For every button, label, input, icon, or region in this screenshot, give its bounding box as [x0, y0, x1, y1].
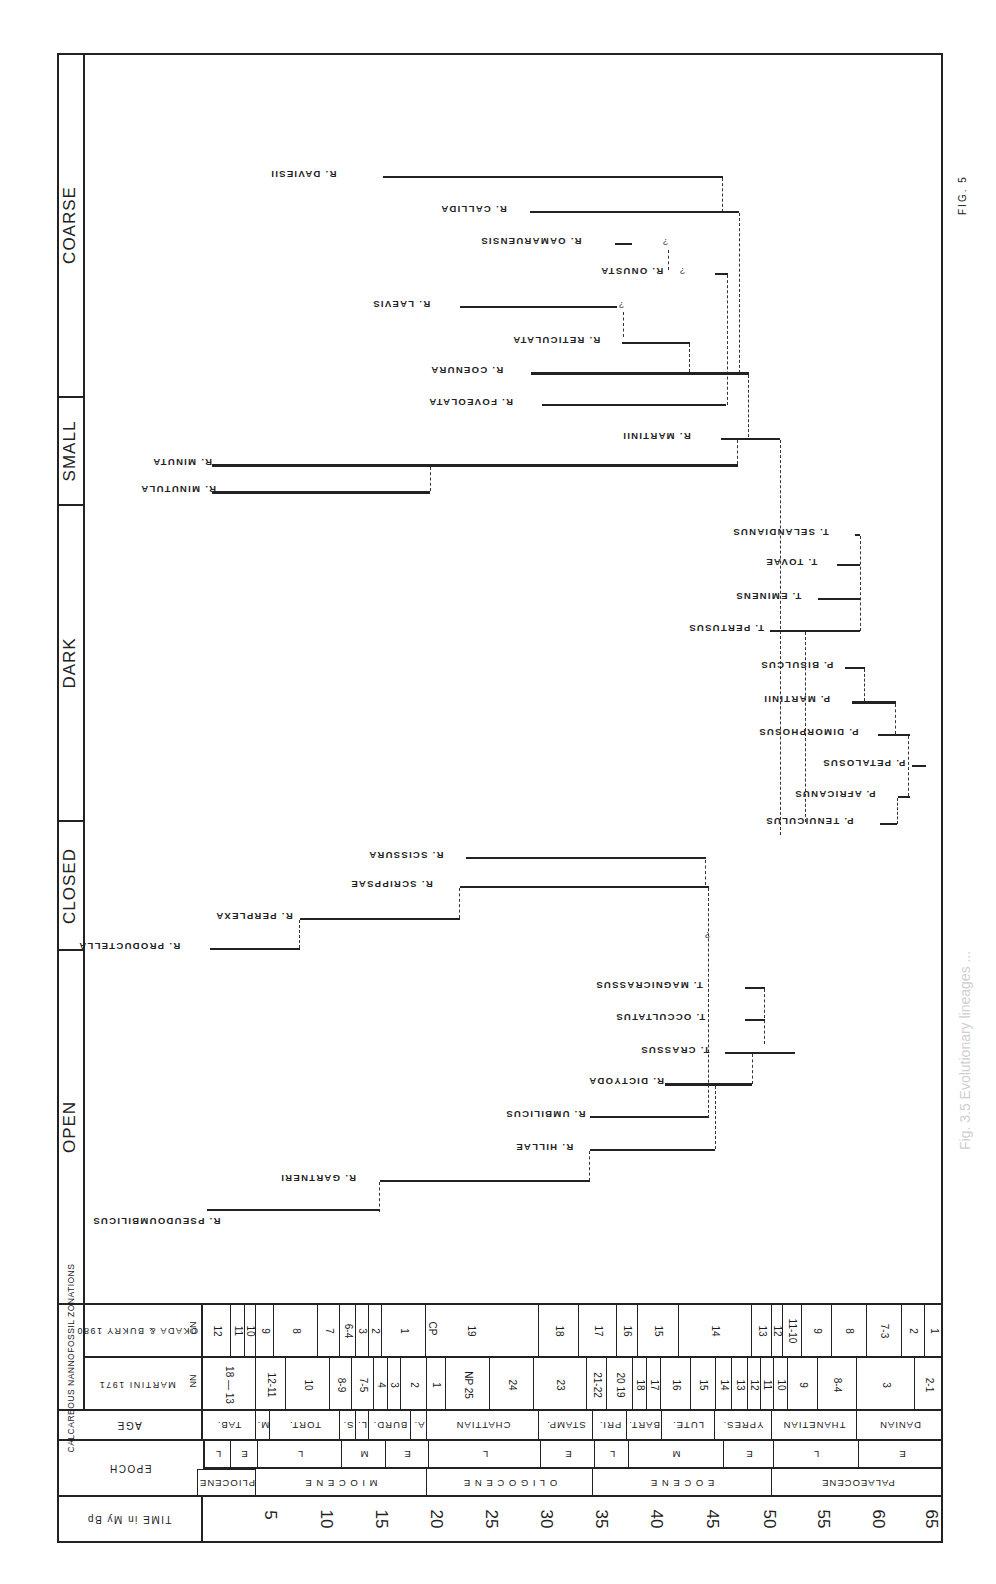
zonation-header: CALCAREOUS NANNOFOSSIL ZONATIONS: [57, 1305, 85, 1409]
subepoch: L: [481, 1449, 487, 1460]
zone: 13: [756, 1325, 767, 1336]
age: STAMP.: [546, 1420, 585, 1431]
range-bar: [622, 342, 690, 344]
range-bar: [207, 1209, 380, 1211]
species-label: R. DAVIESII: [270, 169, 336, 180]
okada-prefix: CN: [188, 1322, 198, 1335]
range-bar: [880, 823, 897, 825]
subepoch-cells: L E L M E L E L M E L E: [203, 1441, 943, 1469]
figure-number: FIG. 5: [957, 175, 968, 215]
time-tick: 65: [921, 1510, 941, 1529]
range-bar: [383, 176, 723, 178]
species-label: R. OAMARUENSIS: [480, 236, 582, 247]
stratigraphy-table: CALCAREOUS NANNOFOSSIL ZONATIONS OKADA &…: [57, 1303, 943, 1543]
species-label: R. UMBILICUS: [505, 1109, 586, 1120]
group-label: CLOSED: [60, 848, 80, 924]
zone: 10: [245, 1325, 256, 1336]
zone: 18 — 13: [224, 1366, 235, 1404]
age: M.: [256, 1420, 269, 1431]
martini-header: MARTINI 1971 NN: [85, 1358, 203, 1411]
age: A.: [413, 1420, 424, 1431]
range-bar: [770, 630, 860, 632]
age: PRI.: [598, 1420, 620, 1431]
range-bar: [725, 1052, 795, 1054]
age-cells: TAB. M. TORT. S. L. BURD. A. CHATTIAN ST…: [203, 1411, 943, 1439]
epoch-label: EPOCH: [108, 1463, 151, 1474]
lineage-link: [737, 440, 738, 464]
subepoch: L: [296, 1449, 302, 1460]
subepoch: E: [240, 1449, 247, 1460]
zone: 23: [555, 1379, 566, 1390]
age-row: AGE TAB. M. TORT. S. L. BURD. A. CHATTIA…: [57, 1409, 943, 1439]
zone: 18: [634, 1379, 645, 1390]
range-bar: [460, 306, 617, 308]
figure-caption: Fig. 3.5 Evolutionary lineages ...: [957, 951, 973, 1150]
range-bar: [837, 564, 860, 566]
species-label: R. GARTNERI: [280, 1173, 356, 1184]
group-dark: DARK: [57, 506, 83, 822]
species-label: T. MAGNICRASSUS: [595, 980, 703, 991]
uncertain-marker: ?: [619, 300, 624, 310]
lineage-link: [705, 860, 706, 885]
group-closed: CLOSED: [57, 822, 83, 951]
zone: 12: [772, 1325, 783, 1336]
zone: 3: [389, 1382, 400, 1388]
age: BART.: [628, 1420, 660, 1431]
group-coarse: COARSE: [57, 53, 83, 398]
species-label: R. ONUSTA: [600, 266, 663, 277]
time-axis-label: TIME in My Bp: [86, 1514, 171, 1525]
species-label: R. HILLAE: [515, 1142, 573, 1153]
group-open: OPEN: [57, 951, 83, 1303]
martini-zones: 18 — 13 12-11 10 8-9 7-5 4 3 2 1 NP 25 2…: [203, 1358, 943, 1411]
time-tick: 40: [646, 1510, 666, 1529]
lineage-link: [623, 312, 624, 337]
lineage-link: [895, 704, 896, 734]
zone: 8: [844, 1328, 855, 1334]
subepoch: E: [403, 1449, 410, 1460]
zone: 16: [622, 1325, 633, 1336]
range-bar: [745, 987, 765, 989]
zone: 17: [648, 1379, 659, 1390]
lineage-link: [864, 669, 865, 701]
time-tick: 35: [591, 1510, 611, 1529]
species-label: R. RETICULATA: [512, 335, 600, 346]
range-bar: [531, 372, 749, 375]
species-label: R. MINUTULA: [140, 484, 216, 495]
range-bar: [590, 1116, 708, 1118]
zone: 14: [718, 1379, 729, 1390]
zone: 3: [357, 1328, 368, 1334]
time-tick: 60: [868, 1510, 888, 1529]
range-bar: [542, 404, 726, 406]
zone: 8: [290, 1328, 301, 1334]
age: THANETIAN: [783, 1420, 846, 1431]
species-label: R. MINUTA: [152, 457, 212, 468]
lineage-link: [379, 1182, 380, 1212]
time-tick: 25: [481, 1510, 501, 1529]
zone: 12-11: [265, 1372, 276, 1397]
age: BURD.: [372, 1420, 407, 1431]
zone: NP 25: [462, 1371, 473, 1399]
subepoch: E: [898, 1449, 905, 1460]
range-bar: [898, 796, 910, 798]
subepoch: L: [214, 1449, 220, 1460]
okada-header: OKADA & BUKRY 1980 CN: [85, 1305, 203, 1358]
range-bar: [852, 701, 896, 704]
age: YPRES.: [723, 1420, 764, 1431]
lineage-link: [727, 275, 728, 405]
zone: 2: [370, 1328, 381, 1334]
species-label: T. TOVAE: [765, 557, 817, 568]
group-label: COARSE: [60, 186, 80, 264]
age: S.: [342, 1420, 353, 1431]
zone: 1: [398, 1328, 409, 1334]
zone: 13: [734, 1379, 745, 1390]
zone: 17: [592, 1325, 603, 1336]
time-tick: 30: [536, 1510, 556, 1529]
species-label: R. CALLIDA: [440, 204, 507, 215]
time-tick: 20: [426, 1510, 446, 1529]
uncertain-marker: ?: [705, 930, 710, 940]
zone: 11-10: [787, 1318, 798, 1343]
zone: 11: [232, 1325, 243, 1335]
zone: 4: [375, 1382, 386, 1388]
range-bar: [210, 948, 300, 950]
zone: 2: [408, 1382, 419, 1388]
